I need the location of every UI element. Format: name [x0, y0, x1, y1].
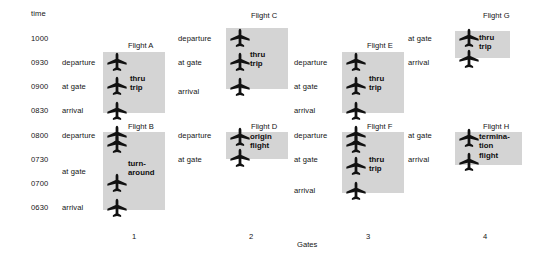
- airplane-icon: [106, 76, 128, 98]
- airplane-icon: [106, 52, 128, 74]
- gate3-event-atgate-0730: at gate: [294, 155, 318, 164]
- gate-number-4: 4: [483, 232, 487, 241]
- airplane-icon: [229, 52, 251, 74]
- flight-type-f: thru trip: [369, 155, 384, 174]
- time-tick-0800: 0800: [31, 131, 48, 140]
- gate2-event-atgate-0730: at gate: [178, 155, 202, 164]
- flight-label-c: Flight C: [251, 11, 277, 20]
- gate1-event-atgate-0900: at gate: [62, 82, 86, 91]
- gate-number-2: 2: [249, 232, 253, 241]
- flight-type-h: termina- tion flight: [479, 132, 510, 160]
- gates-axis-label: Gates: [297, 240, 317, 249]
- gate1-event-arrival-0830: arrival: [62, 106, 83, 115]
- time-tick-0900: 0900: [31, 82, 48, 91]
- gate1-event-atgate-0730: at gate: [62, 167, 86, 176]
- flight-label-d: Flight D: [251, 122, 277, 131]
- flight-type-b: turn- around: [128, 159, 154, 178]
- gate3-event-departure-0800: departure: [294, 131, 327, 140]
- airplane-icon: [345, 181, 367, 203]
- flight-type-c: thru trip: [250, 50, 265, 69]
- time-tick-0830: 0830: [31, 106, 48, 115]
- airplane-icon: [229, 28, 251, 50]
- flight-label-a: Flight A: [128, 41, 153, 50]
- airplane-icon: [345, 52, 367, 74]
- gate3-event-arrival-0830: arrival: [294, 106, 315, 115]
- flight-type-g: thru trip: [479, 33, 494, 52]
- gate4-event-atgate-1000: at gate: [408, 34, 432, 43]
- airplane-icon: [229, 77, 251, 99]
- gate-number-1: 1: [132, 232, 136, 241]
- gate1-event-departure-0800: departure: [62, 131, 95, 140]
- flight-label-h: Flight H: [483, 122, 509, 131]
- airplane-icon: [229, 148, 251, 170]
- time-tick-1000: 1000: [31, 34, 48, 43]
- flight-label-g: Flight G: [483, 11, 510, 20]
- time-axis-label: time: [31, 9, 46, 18]
- gate4-event-atgate-0800: at gate: [408, 131, 432, 140]
- gate2-event-atgate-0930: at gate: [178, 58, 202, 67]
- time-tick-0730: 0730: [31, 155, 48, 164]
- gate4-event-arrival-0930: arrival: [408, 58, 429, 67]
- flight-label-b: Flight B: [128, 122, 154, 131]
- airplane-icon: [458, 152, 480, 174]
- gate4-event-arrival-0730: arrival: [408, 155, 429, 164]
- airplane-icon: [106, 101, 128, 123]
- time-tick-0630: 0630: [31, 203, 48, 212]
- gate2-event-arrival-0900: arrival: [178, 87, 199, 96]
- flight-label-f: Flight F: [367, 122, 392, 131]
- flight-type-a: thru trip: [130, 74, 145, 93]
- gate3-event-departure-0930: departure: [294, 58, 327, 67]
- gate2-event-departure-0800: departure: [178, 131, 211, 140]
- gate2-event-departure-1000: departure: [178, 34, 211, 43]
- flight-type-e: thru trip: [369, 74, 384, 93]
- flight-label-e: Flight E: [367, 41, 393, 50]
- time-tick-0930: 0930: [31, 58, 48, 67]
- airplane-icon: [229, 127, 251, 149]
- gate3-event-atgate-0900: at gate: [294, 82, 318, 91]
- gate-assignment-diagram: time 1000 0930 0900 0830 0800 0730 0700 …: [0, 0, 539, 258]
- airplane-icon: [458, 128, 480, 150]
- airplane-icon: [345, 101, 367, 123]
- gate1-event-arrival-0630: arrival: [62, 203, 83, 212]
- gate1-event-departure-0930: departure: [62, 58, 95, 67]
- airplane-icon: [345, 134, 367, 156]
- airplane-icon: [345, 76, 367, 98]
- airplane-icon: [458, 28, 480, 50]
- time-tick-0700: 0700: [31, 179, 48, 188]
- flight-type-d: origin flight: [250, 132, 272, 151]
- airplane-icon: [106, 173, 128, 195]
- airplane-icon: [458, 49, 480, 71]
- airplane-icon: [106, 198, 128, 220]
- airplane-icon: [106, 134, 128, 156]
- gate-number-3: 3: [366, 232, 370, 241]
- airplane-icon: [345, 156, 367, 178]
- gate3-event-arrival-0630: arrival: [294, 186, 315, 195]
